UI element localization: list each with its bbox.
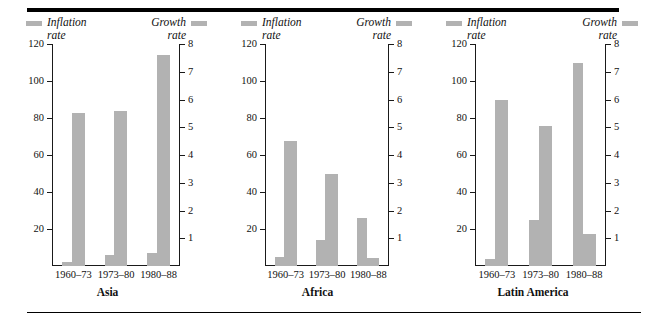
- top-rule: [27, 8, 619, 12]
- y-tick-label-right: 5: [614, 122, 619, 133]
- y-tick-label-left: 80: [34, 113, 45, 124]
- y-tick-label-right: 7: [614, 67, 619, 78]
- y-tick-right: [389, 100, 394, 101]
- x-tick-label: 1980–88: [140, 269, 177, 281]
- bar-growth: [495, 100, 508, 267]
- y-tick-label-left: 20: [457, 224, 468, 235]
- y-tick-right: [180, 183, 185, 184]
- y-tick-label-left: 20: [247, 224, 258, 235]
- x-tick-label: 1973–80: [522, 269, 559, 281]
- y-tick-right: [606, 183, 611, 184]
- y-tick-label-right: 8: [397, 39, 402, 50]
- x-axis-labels-africa: 1960–731973–801980–88: [215, 269, 420, 283]
- y-tick-right: [389, 183, 394, 184]
- inflation-swatch-icon: [241, 21, 257, 26]
- bar-group: [265, 44, 389, 266]
- y-tick-label-right: 4: [188, 150, 193, 161]
- x-tick-label: 1973–80: [309, 269, 346, 281]
- bar-group: [52, 44, 180, 266]
- bar-growth: [284, 141, 296, 266]
- y-tick-label-right: 1: [614, 233, 619, 244]
- plot-area-africa: 20406080100120 12345678: [265, 44, 389, 266]
- y-tick-right: [389, 238, 394, 239]
- y-tick-label-right: 2: [397, 205, 402, 216]
- y-tick-label-right: 7: [397, 67, 402, 78]
- y-tick-label-left: 120: [451, 39, 467, 50]
- y-tick-right: [606, 44, 611, 45]
- y-tick-right: [180, 127, 185, 128]
- y-tick-label-left: 100: [241, 76, 257, 87]
- bar-group: [475, 44, 606, 266]
- plot-area-latin-america: 20406080100120 12345678: [475, 44, 606, 266]
- y-tick-label-right: 6: [397, 94, 402, 105]
- legend-entry-growth: Growth rate: [151, 16, 207, 41]
- y-tick-label-right: 4: [397, 150, 402, 161]
- y-tick-right: [180, 72, 185, 73]
- y-tick-label-right: 3: [188, 178, 193, 189]
- y-tick-right: [389, 72, 394, 73]
- y-tick-right: [606, 100, 611, 101]
- legend-entry-growth: Growth rate: [582, 16, 638, 41]
- y-tick-label-right: 1: [188, 233, 193, 244]
- bar-inflation: [275, 257, 284, 266]
- legend-entry-growth: Growth rate: [356, 16, 412, 41]
- bar-inflation: [529, 220, 539, 266]
- y-tick-label-left: 120: [241, 39, 257, 50]
- growth-swatch-icon: [396, 21, 412, 26]
- legend-label-inflation: Inflation rate: [262, 16, 302, 41]
- x-axis-labels-asia: 1960–731973–801980–88: [0, 269, 215, 283]
- bar-inflation: [485, 259, 495, 266]
- bar-growth: [367, 258, 379, 266]
- x-axis-labels-latin-america: 1960–731973–801980–88: [420, 269, 646, 283]
- legend-label-growth: Growth rate: [151, 16, 186, 41]
- y-tick-label-left: 40: [34, 187, 45, 198]
- y-tick-label-left: 100: [451, 76, 467, 87]
- y-tick-label-left: 40: [457, 187, 468, 198]
- bar-growth: [325, 174, 337, 266]
- y-tick-right: [606, 127, 611, 128]
- bar-inflation: [105, 255, 115, 266]
- panel-title-africa: Africa: [215, 286, 450, 298]
- inflation-swatch-icon: [446, 21, 462, 26]
- bar-inflation: [62, 262, 72, 266]
- y-tick-right: [606, 72, 611, 73]
- y-tick-label-left: 60: [457, 150, 468, 161]
- y-tick-label-right: 1: [397, 233, 402, 244]
- bottom-rule: [27, 312, 641, 313]
- legend-label-inflation: Inflation rate: [47, 16, 87, 41]
- y-tick-right: [180, 44, 185, 45]
- bar-inflation: [573, 63, 583, 267]
- y-tick-label-right: 3: [397, 178, 402, 189]
- y-tick-label-left: 60: [34, 150, 45, 161]
- growth-swatch-icon: [191, 21, 207, 26]
- x-tick-label: 1980–88: [350, 269, 387, 281]
- y-tick-right: [389, 155, 394, 156]
- y-tick-label-right: 6: [614, 94, 619, 105]
- x-tick-label: 1960–73: [478, 269, 515, 281]
- y-tick-right: [606, 155, 611, 156]
- y-tick-label-right: 3: [614, 178, 619, 189]
- y-tick-right: [389, 127, 394, 128]
- y-tick-label-left: 40: [247, 187, 258, 198]
- y-tick-label-right: 8: [188, 39, 193, 50]
- y-tick-label-right: 2: [188, 205, 193, 216]
- inflation-swatch-icon: [26, 21, 42, 26]
- y-tick-right: [180, 211, 185, 212]
- x-tick-label: 1960–73: [267, 269, 304, 281]
- y-tick-label-left: 60: [247, 150, 258, 161]
- legend-label-inflation: Inflation rate: [467, 16, 507, 41]
- y-tick-label-left: 80: [457, 113, 468, 124]
- y-tick-label-left: 20: [34, 224, 45, 235]
- y-tick-label-left: 80: [247, 113, 258, 124]
- y-tick-right: [606, 238, 611, 239]
- bar-inflation: [316, 240, 325, 266]
- y-tick-label-right: 8: [614, 39, 619, 50]
- y-tick-label-left: 100: [28, 76, 44, 87]
- bar-growth: [157, 55, 170, 266]
- growth-swatch-icon: [622, 21, 638, 26]
- y-tick-label-right: 5: [397, 122, 402, 133]
- bar-growth: [583, 234, 596, 266]
- plot-area-asia: 20406080100120 12345678: [52, 44, 180, 266]
- bar-growth: [539, 126, 552, 266]
- x-tick-label: 1960–73: [55, 269, 92, 281]
